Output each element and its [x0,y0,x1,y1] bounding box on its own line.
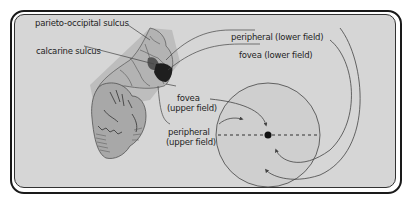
label-fovea-upper-field: (upper field) [167,104,217,114]
label-fovea-lower-field: fovea (lower field) [239,51,312,61]
label-peripheral-upper-field: (upper field) [166,138,216,148]
occipital-lobe [96,28,173,92]
label-calcarine-sulcus: calcarine sulcus [36,47,101,57]
diagram-canvas [0,0,412,202]
label-parieto-occipital-sulcus: parieto-occipital sulcus [35,19,129,29]
label-peripheral-lower-field: peripheral (lower field) [231,33,323,43]
fixation-point [265,132,272,139]
